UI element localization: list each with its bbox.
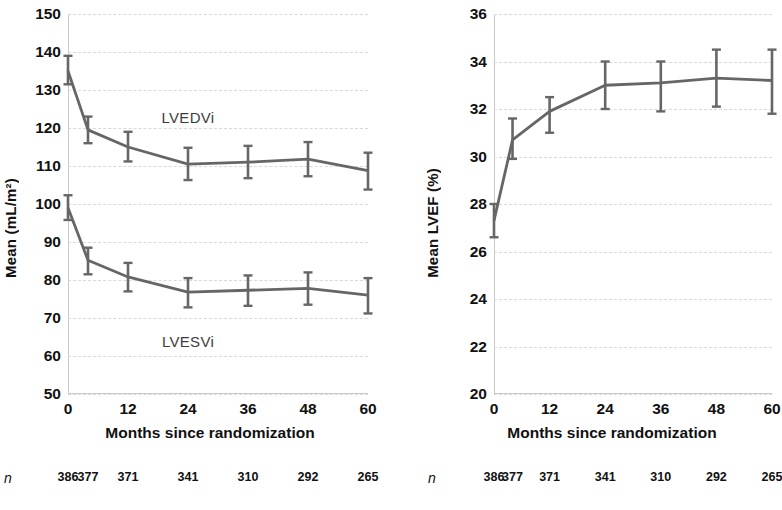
chart-panel-left: Mean (mL/m²) 506070809010011012013014015… (0, 0, 400, 510)
y-axis-label-right: Mean LVEF (%) (424, 168, 441, 278)
y-axis-tick-label: 34 (470, 53, 494, 71)
y-axis-tick-label: 130 (35, 81, 68, 99)
series-annotation-lvesvi: LVESVi (162, 332, 214, 349)
n-value: 265 (762, 470, 782, 484)
series-annotation-lvedvi: LVEDVi (162, 108, 215, 125)
n-value: 265 (358, 470, 379, 484)
n-value: 341 (178, 470, 199, 484)
n-row-left: n 386377371341310292265 (0, 470, 400, 490)
x-axis-tick-label: 60 (763, 400, 780, 418)
n-value: 292 (298, 470, 319, 484)
plot-area-right: 20222426283032343601224364860 (494, 14, 772, 394)
y-axis-tick-label: 100 (35, 195, 68, 213)
gridline (68, 394, 368, 395)
series-line (494, 78, 772, 221)
n-value: 371 (539, 470, 560, 484)
n-value: 377 (78, 470, 99, 484)
y-axis-label-left: Mean (mL/m²) (2, 178, 19, 278)
y-axis-tick-label: 150 (35, 5, 68, 23)
n-value: 386 (58, 470, 79, 484)
n-row-right: n 386377371341310292265 (400, 470, 781, 490)
x-axis-label-left: Months since randomization (40, 424, 380, 442)
n-value: 371 (118, 470, 139, 484)
y-axis-tick-label: 80 (44, 271, 68, 289)
y-axis-tick-label: 22 (470, 338, 494, 356)
n-value: 310 (650, 470, 671, 484)
x-axis-tick-label: 36 (239, 400, 256, 418)
x-axis-tick-label: 48 (299, 400, 316, 418)
y-axis-tick-label: 60 (44, 347, 68, 365)
n-value: 377 (502, 470, 523, 484)
x-axis-tick-label: 60 (359, 400, 376, 418)
series-line (68, 208, 368, 295)
series-line (68, 71, 368, 171)
series-lvesvi (64, 195, 373, 313)
x-axis-tick-label: 48 (708, 400, 725, 418)
series-lvef (490, 50, 777, 238)
y-axis-tick-label: 36 (470, 5, 494, 23)
n-row-label-right: n (428, 470, 436, 486)
x-axis-tick-label: 24 (597, 400, 614, 418)
series-overlay (494, 14, 772, 394)
gridline (494, 394, 772, 395)
n-value: 310 (238, 470, 259, 484)
series-overlay (68, 14, 368, 394)
n-value: 341 (595, 470, 616, 484)
y-axis-tick-label: 26 (470, 243, 494, 261)
x-axis-tick-label: 24 (179, 400, 196, 418)
y-axis-tick-label: 140 (35, 43, 68, 61)
x-axis-tick-label: 12 (119, 400, 136, 418)
y-axis-tick-label: 120 (35, 119, 68, 137)
y-axis-tick-label: 90 (44, 233, 68, 251)
x-axis-tick-label: 0 (64, 400, 73, 418)
y-axis-tick-label: 110 (36, 157, 68, 175)
x-axis-tick-label: 36 (652, 400, 669, 418)
y-axis-tick-label: 32 (470, 100, 494, 118)
x-axis-label-right: Months since randomization (452, 424, 772, 442)
y-axis-tick-label: 30 (470, 148, 494, 166)
y-axis-tick-label: 70 (44, 309, 68, 327)
series-lvedvi (64, 56, 373, 190)
n-row-label-left: n (4, 470, 12, 486)
plot-area-left: 506070809010011012013014015001224364860L… (68, 14, 368, 394)
n-value: 292 (706, 470, 727, 484)
x-axis-tick-label: 12 (541, 400, 558, 418)
x-axis-tick-label: 0 (490, 400, 499, 418)
y-axis-tick-label: 24 (470, 290, 494, 308)
